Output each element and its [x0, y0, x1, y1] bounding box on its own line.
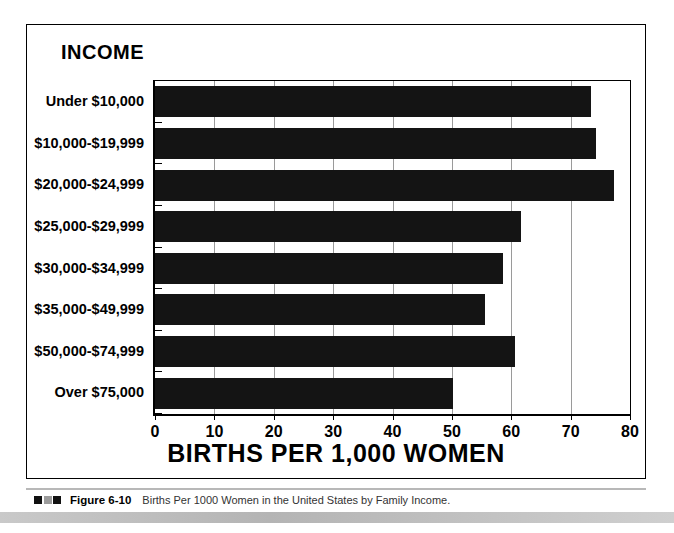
- y-axis-category-label: $35,000-$49,999: [34, 289, 144, 331]
- bar-row: [155, 289, 630, 331]
- x-axis-tick: [452, 414, 453, 420]
- x-axis-tick: [571, 414, 572, 420]
- x-axis-tick: [274, 414, 275, 420]
- bar: [155, 211, 521, 242]
- y-axis-category-label: $25,000-$29,999: [34, 206, 144, 248]
- y-axis-category-label: $20,000-$24,999: [34, 164, 144, 206]
- bar-row: [155, 164, 630, 206]
- y-axis-category-label: $10,000-$19,999: [34, 123, 144, 165]
- y-axis-category-label: Over $75,000: [55, 372, 145, 414]
- bar: [155, 86, 591, 117]
- x-axis-tick: [630, 414, 631, 420]
- bar-row: [155, 372, 630, 414]
- caption-swatch-dark-icon: [34, 496, 42, 504]
- x-axis-tick: [155, 414, 156, 420]
- caption-figure-number: Figure 6-10: [70, 494, 131, 506]
- x-axis-tick: [511, 414, 512, 420]
- caption-description: Births Per 1000 Women in the United Stat…: [142, 494, 450, 506]
- chart-frame: INCOME 01020304050607080 Under $10,000$1…: [26, 24, 646, 479]
- page-footer-bar: [0, 512, 674, 523]
- figure-page: INCOME 01020304050607080 Under $10,000$1…: [0, 0, 674, 533]
- bar: [155, 294, 485, 325]
- x-axis-tick: [214, 414, 215, 420]
- y-axis-category-label: Under $10,000: [46, 81, 144, 123]
- x-axis-tick: [393, 414, 394, 420]
- plot-area: 01020304050607080 Under $10,000$10,000-$…: [153, 80, 631, 416]
- caption-swatch-grey-icon: [44, 496, 52, 504]
- y-axis-category-label: $50,000-$74,999: [34, 331, 144, 373]
- x-axis-tick: [333, 414, 334, 420]
- bar: [155, 378, 453, 409]
- bar-row: [155, 248, 630, 290]
- bar: [155, 336, 515, 367]
- bar: [155, 128, 596, 159]
- figure-caption: Figure 6-10 Births Per 1000 Women in the…: [34, 494, 649, 506]
- bar: [155, 170, 614, 201]
- y-axis-category-label: $30,000-$34,999: [34, 248, 144, 290]
- bar: [155, 253, 503, 284]
- caption-divider: [26, 488, 646, 490]
- bar-row: [155, 206, 630, 248]
- y-axis-tick: [155, 413, 162, 414]
- x-axis-title: BIRTHS PER 1,000 WOMEN: [27, 439, 645, 468]
- bar-row: [155, 331, 630, 373]
- bar-row: [155, 81, 630, 123]
- caption-swatch-group: [34, 496, 61, 504]
- bar-row: [155, 123, 630, 165]
- panel-title-income: INCOME: [61, 41, 144, 64]
- caption-swatch-dark2-icon: [53, 496, 61, 504]
